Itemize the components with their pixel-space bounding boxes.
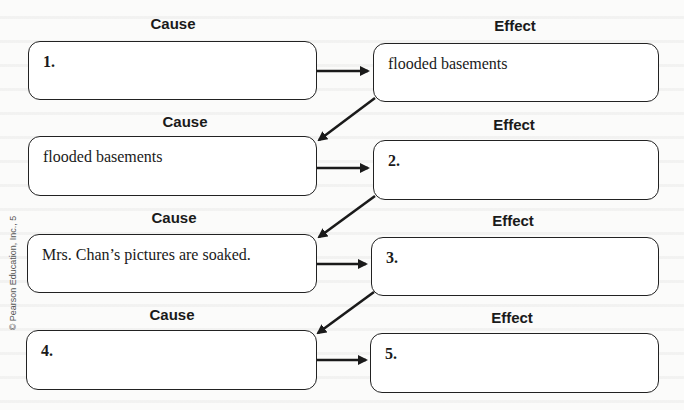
diagonal-down-left-arrow-icon — [319, 98, 375, 140]
arrows-layer — [0, 0, 684, 410]
diagonal-down-left-arrow-icon — [319, 196, 375, 237]
diagonal-down-left-arrow-icon — [318, 292, 374, 333]
